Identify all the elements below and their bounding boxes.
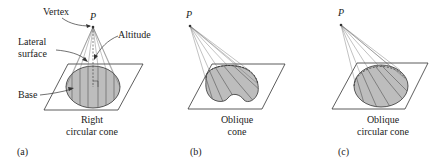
vertex-point xyxy=(189,25,192,28)
panel-b-oblique-cone: P Oblique cone (b) xyxy=(185,9,285,158)
cone-base xyxy=(354,65,408,107)
vertex-arrow xyxy=(62,18,90,26)
annotation-vertex: Vertex xyxy=(43,6,69,17)
annotation-lateral-1: Lateral xyxy=(18,36,47,47)
caption-b-line1: Oblique xyxy=(221,114,254,125)
caption-c-line1: Oblique xyxy=(367,114,400,125)
lateral-arrow xyxy=(56,50,86,60)
vertex-label: P xyxy=(89,11,96,22)
cone-types-figure: P Vertex Altitude Lateral surface Base R… xyxy=(0,0,445,164)
panel-label-c: (c) xyxy=(338,146,349,158)
caption-c-line2: circular cone xyxy=(357,126,409,137)
panel-label-a: (a) xyxy=(17,146,28,158)
annotation-altitude: Altitude xyxy=(118,29,151,40)
annotation-lateral-2: surface xyxy=(18,48,47,59)
vertex-label: P xyxy=(337,7,344,18)
caption-b-line2: cone xyxy=(228,126,247,137)
panel-a-right-circular-cone: P Vertex Altitude Lateral surface Base R… xyxy=(17,6,151,158)
vertex-point xyxy=(92,26,95,29)
annotation-base: Base xyxy=(18,89,38,100)
vertex-label: P xyxy=(185,9,192,20)
caption-a-line2: circular cone xyxy=(66,126,118,137)
caption-a-line1: Right xyxy=(81,114,103,125)
vertex-point xyxy=(340,24,343,27)
panel-label-b: (b) xyxy=(190,146,202,158)
panel-c-oblique-circular-cone: P Oblique circular cone (c) xyxy=(332,7,428,158)
